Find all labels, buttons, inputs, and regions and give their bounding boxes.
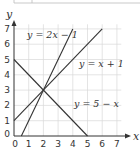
- x-tick-label: 6: [99, 139, 105, 149]
- x-tick-label: 3: [55, 139, 61, 149]
- y-tick-label: 6: [4, 39, 10, 49]
- y-tick-label: 5: [4, 55, 10, 65]
- x-axis-arrow-icon: [125, 134, 131, 139]
- x-tick-label: 2: [41, 139, 47, 149]
- x-tick-label: 1: [26, 139, 32, 149]
- label-2x-minus-1: y = 2x − 1: [26, 29, 78, 40]
- grid: [14, 24, 121, 136]
- x-tick-label: 4: [70, 139, 76, 149]
- y-tick-label: 1: [4, 116, 10, 126]
- x-tick-label: 0: [12, 139, 18, 149]
- top-border: [14, 0, 140, 3]
- x-axis-label: x: [133, 130, 140, 143]
- y-tick-label: 3: [4, 85, 10, 95]
- y-axis-arrow-icon: [12, 20, 17, 26]
- y-axis-label: y: [5, 8, 13, 21]
- y-tick-label: 4: [4, 70, 10, 80]
- y-tick-label: 7: [4, 24, 10, 34]
- line-chart: 0123456701234567 y x y = 2x − 1 y = x + …: [0, 0, 140, 150]
- label-5-minus-x: y = 5 − x: [73, 98, 119, 109]
- y-tick-label: 2: [4, 100, 10, 110]
- x-tick-label: 7: [114, 139, 120, 149]
- x-tick-label: 5: [85, 139, 91, 149]
- y-tick-label: 0: [4, 129, 10, 139]
- label-x-plus-1: y = x + 1: [78, 58, 124, 69]
- series-line: [21, 29, 72, 136]
